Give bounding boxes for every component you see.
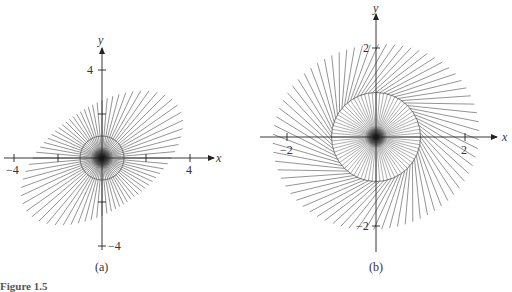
- figure-caption: Figure 1.5: [0, 280, 47, 292]
- x-tick-label-4: 4: [186, 163, 192, 177]
- panel-b: x y −2 2 2 −2 (b): [260, 1, 508, 274]
- panel-label-a: (a): [95, 260, 108, 274]
- y-axis-label-a: y: [97, 33, 104, 47]
- x-axis-label-a: x: [215, 151, 222, 165]
- x-tick-label-neg4: −4: [6, 163, 19, 177]
- panel-label-b: (b): [369, 260, 383, 274]
- x-axis-label-b: x: [501, 130, 508, 144]
- y-tick-label-2: 2: [363, 41, 369, 55]
- x-tick-label-neg2: −2: [280, 143, 293, 157]
- panel-a: x y −4 4 4 −4 (a): [4, 33, 222, 274]
- y-tick-label-neg4: −4: [108, 239, 121, 253]
- y-axis-label-b: y: [372, 1, 379, 15]
- y-tick-label-neg2: −2: [356, 219, 369, 233]
- y-tick-label-4: 4: [87, 63, 93, 77]
- x-tick-label-2: 2: [461, 143, 467, 157]
